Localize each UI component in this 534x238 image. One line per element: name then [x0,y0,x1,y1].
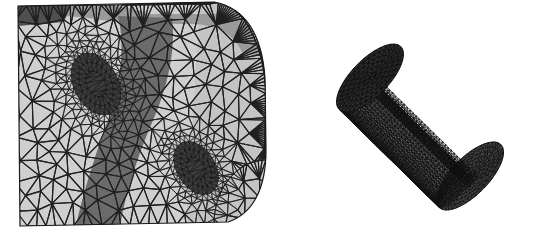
mesh-render-canvas [0,0,534,238]
mesh-visualization-figure: Two greyscale rendered triangular finite… [0,0,534,238]
